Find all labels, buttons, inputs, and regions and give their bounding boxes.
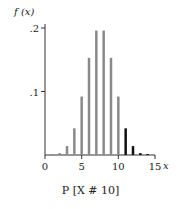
x-tick-label: 0 xyxy=(42,161,48,172)
bars xyxy=(51,31,149,155)
bar-x-13 xyxy=(139,153,142,155)
bar-x-5 xyxy=(80,97,83,155)
bar-x-12 xyxy=(132,146,135,155)
bar-x-8 xyxy=(102,31,105,155)
bar-x-4 xyxy=(73,128,76,155)
axes xyxy=(41,24,155,159)
y-axis-label: f (x) xyxy=(14,6,34,17)
bar-x-3 xyxy=(66,146,69,155)
bar-x-9 xyxy=(110,58,113,155)
pmf-bar-chart: .1.2051015x xyxy=(0,0,181,209)
bar-x-6 xyxy=(88,58,91,155)
x-axis-label: x xyxy=(163,160,169,171)
x-tick-label: 5 xyxy=(78,161,84,172)
y-tick-label: .2 xyxy=(29,23,39,34)
bar-x-14 xyxy=(146,154,149,155)
x-tick-label: 15 xyxy=(149,161,162,172)
bar-x-11 xyxy=(124,128,127,155)
bar-x-1 xyxy=(51,154,54,155)
bar-x-10 xyxy=(117,97,120,155)
y-tick-label: .1 xyxy=(29,87,39,98)
bar-x-2 xyxy=(58,153,61,155)
bar-x-7 xyxy=(95,31,98,155)
chart-caption: P [X # 10] xyxy=(0,184,181,197)
tick-labels: .1.2051015x xyxy=(29,23,169,172)
x-tick-label: 10 xyxy=(112,161,125,172)
